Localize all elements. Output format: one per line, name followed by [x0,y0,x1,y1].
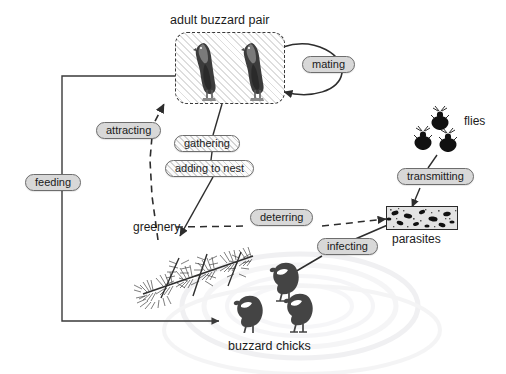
entity-parasites[interactable] [386,206,458,230]
label-parasites: parasites [392,233,441,245]
chick-bird-icon [228,258,358,333]
entity-buzzard-chicks[interactable] [228,258,358,333]
edge-deterring [176,226,247,227]
relation-mating[interactable]: mating [302,56,355,73]
fly-insect-icon [410,105,472,157]
edge-deterring-tail [322,219,386,226]
edge-gathering [213,104,222,135]
diagram-canvas: adult buzzard pair [0,0,506,374]
edge-gathering-to-adding [211,152,212,160]
relation-gathering[interactable]: gathering [174,135,240,152]
label-greenery: greenery [133,221,180,233]
relation-transmitting[interactable]: transmitting [397,168,474,185]
label-buzzard-chicks: buzzard chicks [228,340,311,353]
entity-adult-buzzard-pair[interactable] [175,32,285,104]
edge-adding-to-nest [180,177,213,236]
relation-attracting[interactable]: attracting [96,122,161,139]
label-flies: flies [464,115,485,127]
relation-feeding[interactable]: feeding [25,174,81,191]
relation-deterring[interactable]: deterring [250,209,313,226]
label-adult-buzzard-pair: adult buzzard pair [170,14,269,27]
entity-flies[interactable] [410,105,472,157]
parasite-texture-icon [387,207,457,229]
edge-transmitting-to-parasites [412,188,420,207]
buzzard-bird-icon [176,33,284,103]
relation-infecting[interactable]: infecting [317,238,378,255]
relation-adding-to-nest[interactable]: adding to nest [165,160,254,177]
